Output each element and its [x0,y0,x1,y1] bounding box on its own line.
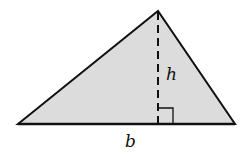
triangle-shape [18,11,235,124]
triangle-figure: h b [0,0,249,156]
base-label: b [125,131,136,151]
height-label: h [166,64,177,84]
triangle-diagram: h b [0,0,249,156]
